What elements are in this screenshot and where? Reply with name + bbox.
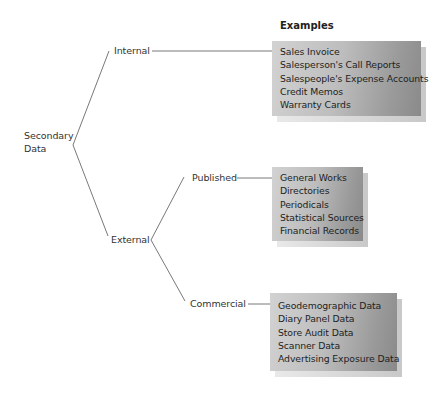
example-item: Periodicals <box>280 198 363 211</box>
example-item: Credit Memos <box>280 85 421 98</box>
commercial-examples-box: Geodemographic Data Diary Panel Data Sto… <box>270 293 397 371</box>
example-item: Advertising Exposure Data <box>278 352 397 365</box>
examples-heading: Examples <box>280 20 334 31</box>
external-label: External <box>111 233 150 246</box>
external-to-published-line <box>151 177 184 240</box>
commercial-label: Commercial <box>190 297 246 310</box>
published-examples-box: General Works Directories Periodicals St… <box>272 167 363 241</box>
internal-label: Internal <box>114 44 150 57</box>
internal-examples-box: Sales Invoice Salesperson's Call Reports… <box>272 41 421 116</box>
example-item: Diary Panel Data <box>278 312 397 325</box>
example-item: Salespeople's Expense Accounts <box>280 72 421 85</box>
box-face: General Works Directories Periodicals St… <box>272 167 363 241</box>
root-to-external-line <box>73 145 108 236</box>
example-item: Directories <box>280 184 363 197</box>
box-face: Sales Invoice Salesperson's Call Reports… <box>272 41 421 116</box>
example-item: Financial Records <box>280 224 363 237</box>
example-item: Scanner Data <box>278 339 397 352</box>
example-item: Statistical Sources <box>280 211 363 224</box>
root-to-internal-line <box>73 51 109 145</box>
root-label-line2: Data <box>24 142 46 155</box>
external-to-commercial-line <box>151 240 185 301</box>
example-item: General Works <box>280 171 363 184</box>
example-item: Geodemographic Data <box>278 299 397 312</box>
example-item: Store Audit Data <box>278 326 397 339</box>
published-label: Published <box>192 171 237 184</box>
example-item: Salesperson's Call Reports <box>280 58 421 71</box>
example-item: Sales Invoice <box>280 45 421 58</box>
example-item: Warranty Cards <box>280 98 421 111</box>
root-label-line1: Secondary <box>24 129 73 142</box>
box-face: Geodemographic Data Diary Panel Data Sto… <box>270 293 397 371</box>
